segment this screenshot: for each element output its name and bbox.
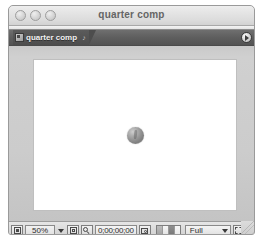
tab-quarter-comp[interactable]: quarter comp ♪ [13,30,89,45]
zoom-level-value[interactable]: 50% [25,225,55,236]
snapshot-glyph [141,228,148,234]
channel-swatch-alpha[interactable] [175,226,180,236]
tab-pin-icon[interactable]: ♪ [82,30,86,45]
composition-viewer[interactable] [9,46,254,222]
chevron-down-icon-zoom[interactable] [58,229,64,233]
grid-and-guides-icon[interactable] [81,225,93,236]
quarter-coin-layer[interactable] [127,127,144,144]
preview-view-glyph [14,227,21,234]
tab-label: quarter comp [26,30,77,45]
always-preview-this-view-icon[interactable] [11,225,23,236]
grid-guides-glyph [83,227,91,235]
resize-grip-icon[interactable] [241,221,254,234]
panel-menu-icon[interactable] [241,32,252,43]
resolution-select[interactable]: Full [185,225,231,236]
channel-and-color-management-group[interactable] [156,225,181,236]
viewer-toolbar: 50% 0;00;00;00 Full [9,222,254,235]
take-snapshot-icon[interactable] [139,225,151,236]
window-title: quarter comp [9,9,254,20]
composition-icon [15,33,24,42]
window-titlebar[interactable]: quarter comp [9,6,254,26]
composition-canvas[interactable] [34,60,236,210]
roi-glyph [70,227,77,234]
current-time-field[interactable]: 0;00;00;00 [95,225,137,236]
chevron-down-icon-resolution [222,229,228,233]
resolution-label: Full [190,226,221,235]
panel-menu-glyph [245,35,249,41]
composition-window: quarter comp quarter comp ♪ 50% [8,5,255,235]
screenshot-root: quarter comp quarter comp ♪ 50% [0,0,262,239]
panel-tabbar: quarter comp ♪ [9,30,254,46]
region-of-interest-icon[interactable] [67,225,79,236]
